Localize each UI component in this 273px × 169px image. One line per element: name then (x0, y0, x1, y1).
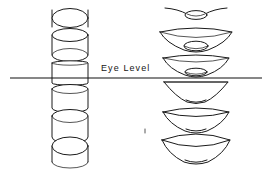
cylinder-4 (52, 85, 88, 113)
cone-3 (163, 55, 229, 77)
cone-2-base-ellipse (184, 41, 208, 51)
cone-5-outer-body (163, 108, 229, 133)
cone-1 (165, 8, 227, 19)
cone-1-base-ellipse (185, 11, 207, 20)
cylinder-2-top-rim (52, 29, 88, 42)
cylinder-6-base-curve (52, 162, 88, 168)
cone-2 (160, 28, 232, 52)
cone-5 (163, 108, 229, 133)
cone-6-outer-body (162, 134, 230, 164)
cylinder-1 (52, 9, 88, 28)
cone-1-left-rim (165, 8, 187, 14)
cylinder-1-top-rim (52, 9, 88, 28)
cylinder-6 (52, 137, 88, 168)
cone-4-outer-body (164, 82, 228, 104)
cylinder-2 (52, 29, 88, 62)
cone-4 (164, 82, 228, 104)
eye-level-label: Eye Level (101, 63, 150, 73)
perspective-figure: Eye Level (0, 0, 273, 169)
cylinder-4-body (52, 85, 88, 113)
cylinder-6-top-rim (52, 137, 88, 155)
cone-1-right-rim (205, 8, 227, 14)
perspective-diagram-page: Eye Level (0, 0, 273, 169)
cone-6 (162, 134, 230, 164)
cylinder-column (52, 9, 88, 169)
cone-column (160, 8, 232, 164)
cylinder-3 (52, 61, 88, 85)
cone-3-base-ellipse (185, 68, 207, 76)
